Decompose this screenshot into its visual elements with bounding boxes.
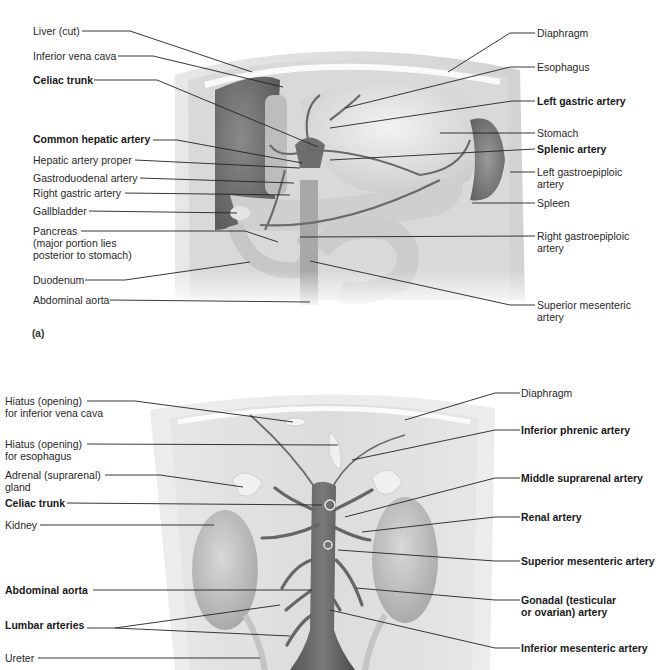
label-liver-cut: Liver (cut): [33, 25, 80, 37]
label-hiatus-inferior-vena-cava: Hiatus (opening) for inferior vena cava: [5, 395, 103, 419]
label-hiatus-esophagus: Hiatus (opening) for esophagus: [5, 438, 82, 462]
label-gonadal-artery: Gonadal (testicular or ovarian) artery: [521, 594, 616, 618]
label-diaphragm-b: Diaphragm: [521, 387, 572, 399]
label-stomach: Stomach: [537, 127, 578, 139]
label-duodenum: Duodenum: [33, 274, 84, 286]
label-abdominal-aorta-b: Abdominal aorta: [5, 584, 88, 596]
label-middle-suprarenal-artery: Middle suprarenal artery: [521, 472, 643, 484]
label-left-gastroepiploic-artery: Left gastroepiploic artery: [537, 166, 622, 190]
figure-b-abdominal-aorta: Hiatus (opening) for inferior vena cava …: [0, 360, 668, 670]
label-pancreas: Pancreas (major portion lies posterior t…: [33, 225, 132, 261]
label-inferior-mesenteric-artery: Inferior mesenteric artery: [521, 642, 648, 654]
label-kidney: Kidney: [5, 519, 37, 531]
panel-label-a: (a): [32, 328, 44, 339]
label-hepatic-artery-proper: Hepatic artery proper: [33, 154, 132, 166]
label-celiac-trunk-b: Celiac trunk: [5, 497, 65, 509]
label-gallbladder: Gallbladder: [33, 205, 87, 217]
label-abdominal-aorta: Abdominal aorta: [33, 294, 109, 306]
label-inferior-phrenic-artery: Inferior phrenic artery: [521, 424, 630, 436]
figure-a-celiac-trunk: Liver (cut) Inferior vena cava Celiac tr…: [0, 0, 668, 345]
label-esophagus: Esophagus: [537, 61, 590, 73]
label-renal-artery: Renal artery: [521, 511, 582, 523]
label-left-gastric-artery: Left gastric artery: [537, 95, 626, 107]
label-celiac-trunk: Celiac trunk: [33, 74, 93, 86]
label-common-hepatic-artery: Common hepatic artery: [33, 133, 150, 145]
label-splenic-artery: Splenic artery: [537, 143, 606, 155]
label-right-gastroepiploic-artery: Right gastroepiploic artery: [537, 230, 629, 254]
label-superior-mesenteric-artery-b: Superior mesenteric artery: [521, 555, 655, 567]
label-lumbar-arteries: Lumbar arteries: [5, 619, 84, 631]
label-adrenal-gland: Adrenal (suprarenal) gland: [5, 469, 101, 493]
label-inferior-vena-cava: Inferior vena cava: [33, 50, 116, 62]
label-superior-mesenteric-artery: Superior mesenteric artery: [537, 299, 631, 323]
label-ureter: Ureter: [5, 652, 34, 664]
label-diaphragm: Diaphragm: [537, 27, 588, 39]
label-gastroduodenal-artery: Gastroduodenal artery: [33, 172, 137, 184]
label-spleen: Spleen: [537, 197, 570, 209]
label-right-gastric-artery: Right gastric artery: [33, 187, 121, 199]
